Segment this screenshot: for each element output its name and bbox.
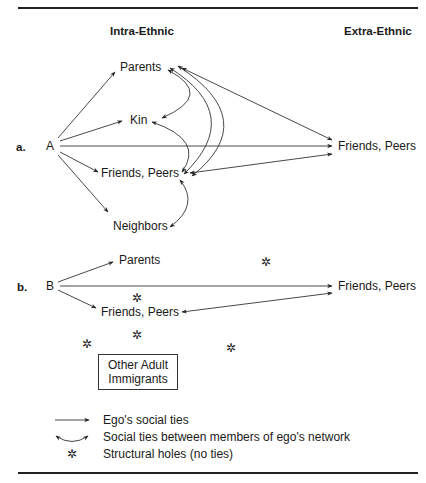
legend-network-ties: Social ties between members of ego's net…	[103, 430, 350, 444]
tie-parents-friends	[170, 68, 211, 174]
structural-hole-star: ✲	[82, 338, 92, 350]
diagram-edges	[0, 0, 426, 483]
edge-a-neighbors	[58, 155, 108, 212]
tie-friends-neighbors	[170, 180, 188, 227]
node-b-friends-extra: Friends, Peers	[338, 279, 416, 293]
tie-parents-extra	[182, 68, 332, 140]
legend-star-icon: ✲	[67, 448, 77, 460]
legend-ego-ties: Ego's social ties	[103, 413, 189, 427]
structural-hole-star: ✲	[226, 342, 236, 354]
tie-b-friends-extra	[182, 293, 332, 312]
edge-a-friends	[60, 152, 98, 172]
structural-hole-star: ✲	[132, 329, 142, 341]
node-a-parents: Parents	[120, 60, 161, 74]
panel-a-label: a.	[16, 140, 26, 154]
ego-b: B	[46, 279, 54, 293]
structural-hole-star: ✲	[132, 292, 142, 304]
node-b-other-adult-immigrants: Other Adult Immigrants	[98, 354, 178, 390]
legend-structural-holes: Structural holes (no ties)	[103, 447, 233, 461]
node-b-friends-intra: Friends, Peers	[101, 305, 179, 319]
node-a-kin: Kin	[130, 113, 147, 127]
box-line-1: Other Adult	[99, 358, 177, 372]
panel-b-label: b.	[17, 280, 27, 294]
legend-curve	[56, 436, 88, 442]
structural-hole-star: ✲	[261, 256, 271, 268]
node-a-friends-extra: Friends, Peers	[338, 139, 416, 153]
edge-a-parents	[58, 72, 115, 138]
tie-kin-friends	[152, 122, 189, 172]
edge-b-parents	[58, 262, 113, 282]
tie-parents-kin	[162, 70, 190, 118]
edge-a-kin	[60, 121, 122, 141]
ego-a: A	[46, 139, 54, 153]
node-a-friends-intra: Friends, Peers	[101, 166, 179, 180]
node-a-neighbors: Neighbors	[113, 219, 168, 233]
box-line-2: Immigrants	[99, 372, 177, 386]
edge-b-friends	[58, 290, 96, 308]
node-b-parents: Parents	[119, 253, 160, 267]
